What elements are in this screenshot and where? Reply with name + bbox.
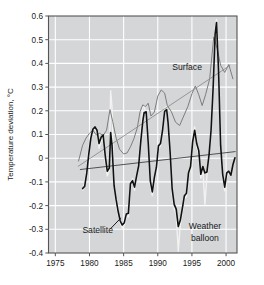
ytick-label-3: -0.1 [29, 178, 44, 187]
ytick-label-4: 0 [38, 154, 43, 163]
surface-label: Surface [172, 62, 202, 72]
chart-figure: 197519801985199019952000-0.4-0.3-0.2-0.1… [0, 0, 264, 285]
xtick-label-1: 1980 [80, 259, 99, 268]
ytick-label-8: 0.4 [32, 59, 44, 68]
y-axis-title: Temperature deviation, °C [6, 88, 15, 181]
ytick-label-6: 0.2 [32, 107, 44, 116]
xtick-label-5: 2000 [217, 259, 236, 268]
ytick-label-10: 0.6 [32, 12, 44, 21]
ytick-label-1: -0.3 [29, 225, 44, 234]
xtick-label-2: 1985 [115, 259, 134, 268]
weather-balloon-label-line1: Weather [189, 221, 221, 231]
xtick-label-4: 1995 [183, 259, 202, 268]
satellite-label: Satellite [82, 225, 113, 235]
ytick-label-0: -0.4 [29, 249, 44, 258]
weather-balloon-label-line2: balloon [191, 233, 219, 243]
ytick-label-7: 0.3 [32, 83, 44, 92]
ytick-label-5: 0.1 [32, 130, 44, 139]
temperature-deviation-line-chart: 197519801985199019952000-0.4-0.3-0.2-0.1… [0, 0, 264, 285]
ytick-label-9: 0.5 [32, 36, 44, 45]
ytick-label-2: -0.2 [29, 202, 44, 211]
xtick-label-0: 1975 [46, 259, 65, 268]
xtick-label-3: 1990 [149, 259, 168, 268]
